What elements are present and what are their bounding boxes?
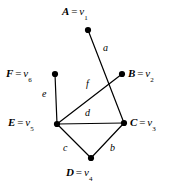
graph-edge-b [91,123,124,158]
edge-label-d: d [85,108,90,118]
vertex-label-B: B=v2 [128,68,155,82]
graph-vertex-dot-D [88,155,94,161]
graph-vertex-dot-B [119,71,125,77]
graph-edge-e [55,74,57,124]
graph-vertex-dot-E [54,121,60,127]
edge-label-a: a [103,43,108,53]
vertex-index-F: 6 [28,76,32,84]
vertices-group [52,27,127,161]
vertex-equals-D: = [74,166,84,178]
vertex-name-E: E [8,116,16,128]
graph-vertex-dot-F [52,71,58,77]
edge-label-c: c [63,143,67,153]
vertex-equals-E: = [16,116,26,128]
vertex-name-C: C [130,116,138,128]
vertex-equals-F: = [14,67,24,79]
graph-vertex-dot-C [121,120,127,126]
vertex-label-A: A=v1 [62,6,89,20]
vertex-index-C: 3 [152,125,156,133]
vertex-label-C: C=v3 [130,117,157,131]
vertex-name-B: B [128,67,136,79]
vertex-label-F: F=v6 [6,68,33,82]
vertex-index-D: 4 [89,175,93,183]
graph-figure: A=v1B=v2C=v3D=v4E=v5F=v6 abcdef [0,0,174,184]
vertex-label-E: E=v5 [8,117,35,131]
edge-label-f: f [86,79,89,89]
graph-edge-d [57,123,124,124]
graph-svg [0,0,174,184]
vertex-equals-B: = [136,67,146,79]
vertex-equals-A: = [70,5,80,17]
vertex-equals-C: = [138,116,148,128]
vertex-label-D: D=v4 [66,167,93,181]
vertex-index-B: 2 [150,76,154,84]
graph-vertex-dot-A [85,27,91,33]
edges-group [55,30,124,158]
edge-label-b: b [110,143,115,153]
vertex-name-F: F [6,67,14,79]
vertex-name-A: A [62,5,70,17]
edge-label-e: e [42,89,46,99]
vertex-index-E: 5 [30,125,34,133]
vertex-index-A: 1 [84,14,88,22]
